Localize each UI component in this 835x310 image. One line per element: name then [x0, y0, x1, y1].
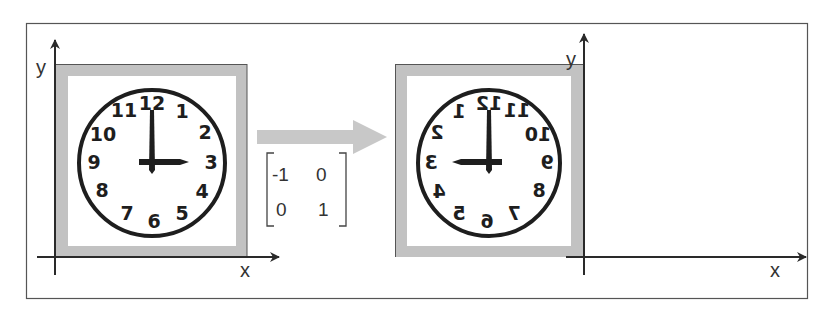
hour-hand	[139, 159, 189, 165]
left-y-label: y	[36, 56, 46, 78]
clock-number-6: 6	[480, 210, 493, 232]
matrix-m01: 0	[316, 164, 327, 185]
clock-number-11: 11	[504, 99, 530, 121]
clock-number-11: 11	[111, 99, 137, 121]
clock-number-10: 10	[525, 123, 551, 145]
left-x-label: x	[240, 259, 250, 281]
clock-number-3: 3	[204, 151, 217, 173]
left-panel: y x 12 1 2 3 4 5 6 7 8 9 10 11	[36, 40, 279, 281]
clock-number-8: 8	[95, 179, 108, 201]
matrix-m10: 0	[276, 199, 287, 220]
clock-number-9: 9	[87, 151, 100, 173]
clock-number-4: 4	[195, 180, 208, 202]
matrix-m00: -1	[272, 164, 289, 185]
clock-number-7: 7	[120, 202, 133, 224]
clock-number-3: 3	[424, 151, 437, 173]
right-clock-mirrored: 12 1 2 3 4 5 6 7 8 9 10 11	[418, 90, 560, 236]
clock-number-4: 4	[432, 180, 445, 202]
clock-number-5: 5	[452, 202, 465, 224]
clock-number-1: 1	[452, 100, 465, 122]
clock-number-9: 9	[540, 151, 553, 173]
clock-number-2: 2	[430, 121, 443, 143]
left-clock: 12 1 2 3 4 5 6 7 8 9 10 11	[79, 90, 225, 236]
hour-hand	[452, 159, 502, 165]
clock-number-1: 1	[175, 100, 188, 122]
clock-number-6: 6	[147, 210, 160, 232]
clock-number-8: 8	[532, 179, 545, 201]
matrix-m11: 1	[318, 199, 329, 220]
clock-number-10: 10	[90, 123, 116, 145]
clock-number-7: 7	[507, 202, 520, 224]
clock-number-2: 2	[198, 121, 211, 143]
clock-number-5: 5	[175, 202, 188, 224]
right-y-label: y	[566, 48, 576, 70]
reflection-diagram: y x 12 1 2 3 4 5 6 7 8 9 10 11 -1 0	[0, 0, 835, 310]
right-x-label: x	[770, 259, 780, 281]
